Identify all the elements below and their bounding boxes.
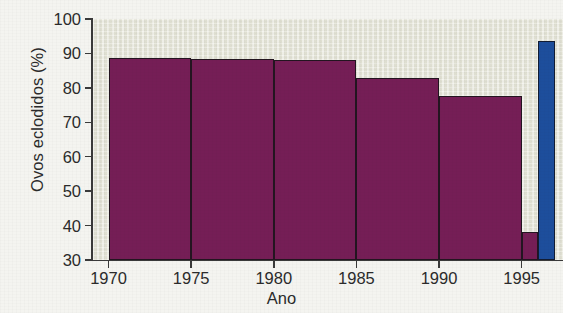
y-tick-label: 60 [41,149,81,166]
y-tick-mark [85,122,92,124]
y-tick-label: 100 [41,11,81,28]
x-tick-label: 1985 [326,270,386,287]
y-tick-mark [85,190,92,192]
x-tick-mark [190,260,192,268]
bar [191,59,274,260]
y-tick-label: 80 [41,80,81,97]
y-tick-mark [85,53,92,55]
x-tick-label: 1980 [244,270,304,287]
x-tick-mark [438,260,440,268]
bar [274,60,357,260]
bar [439,96,522,260]
bar [356,78,439,260]
y-tick-label: 50 [41,183,81,200]
x-tick-mark [273,260,275,268]
bar-chart-figure: Ovos eclodidos (%) Ano 30405060708090100… [0,0,563,313]
y-tick-mark [85,18,92,20]
y-tick-mark [85,225,92,227]
bar [538,41,555,260]
x-axis-title: Ano [0,289,563,308]
bar [109,58,192,260]
x-tick-label: 1990 [409,270,469,287]
y-tick-label: 40 [41,218,81,235]
x-tick-mark [356,260,358,268]
y-tick-label: 70 [41,114,81,131]
bar [522,232,539,260]
y-tick-label: 90 [41,45,81,62]
y-tick-mark [85,259,92,261]
y-tick-label: 30 [41,252,81,269]
y-tick-mark [85,156,92,158]
x-tick-label: 1970 [79,270,139,287]
x-axis-line [86,260,563,262]
y-tick-mark [85,87,92,89]
plot-area [92,19,563,260]
x-tick-label: 1975 [161,270,221,287]
x-tick-label: 1995 [492,270,552,287]
x-tick-mark [521,260,523,268]
x-tick-mark [108,260,110,268]
